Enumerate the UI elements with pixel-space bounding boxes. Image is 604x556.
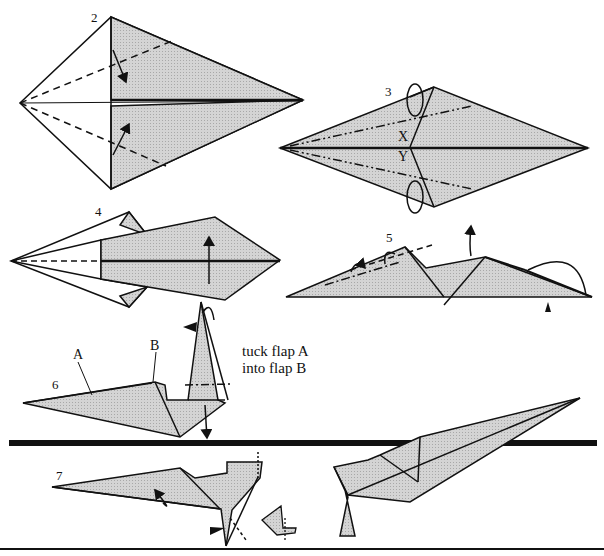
step-7-inset (262, 506, 296, 540)
label-a: A (73, 347, 84, 362)
leader-line-a (78, 362, 92, 395)
final-model-figure (334, 398, 580, 536)
step-6-figure (23, 302, 232, 438)
instruction-note: tuck flap A into flap B (242, 343, 309, 377)
mark-y: Y (398, 149, 408, 164)
label-b: B (150, 338, 159, 353)
note-line-1: tuck flap A (242, 343, 309, 360)
step-number: 3 (385, 84, 392, 99)
step-number: 6 (52, 377, 59, 392)
step-2-figure (20, 17, 303, 189)
step-number: 5 (386, 230, 393, 245)
leader-line-b (153, 352, 156, 382)
push-arrow-icon (545, 302, 551, 312)
step-3-figure (280, 84, 588, 213)
step-5-figure (286, 226, 592, 305)
note-line-2: into flap B (242, 360, 309, 377)
step-4-figure (11, 212, 280, 307)
step-number: 2 (91, 10, 98, 25)
push-arrow-icon (210, 527, 225, 535)
divider-bottom (0, 548, 604, 550)
mark-x: X (398, 129, 408, 144)
step-number: 7 (56, 468, 63, 483)
push-arrow-icon (183, 322, 197, 332)
step-7-figure (52, 452, 262, 546)
origami-diagram: 2 3 X Y 4 5 (0, 0, 604, 556)
step-number: 4 (95, 204, 102, 219)
